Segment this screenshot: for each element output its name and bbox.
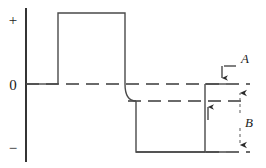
axis-label-negative: − [9, 140, 17, 156]
axis-label-positive: + [9, 12, 17, 28]
waveform-svg: + 0 − A B [0, 0, 266, 168]
positive-pulse [58, 13, 125, 84]
annotation-b-label: B [245, 115, 253, 130]
annotation-a-label: A [240, 51, 249, 66]
waveform-figure: + 0 − A B [0, 0, 266, 168]
curved-transition [125, 84, 136, 101]
negative-pulse [136, 84, 205, 152]
axis-label-zero: 0 [9, 77, 17, 93]
